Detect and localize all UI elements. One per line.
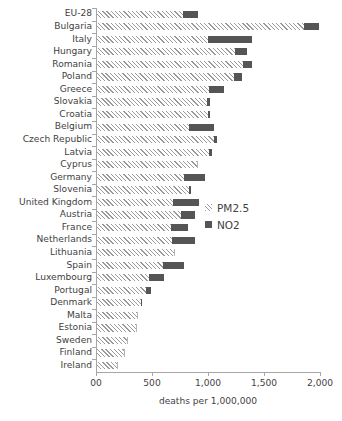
bar-segment-pm25: [96, 11, 184, 18]
category-label: Greece: [0, 85, 92, 94]
bar-segment-pm25: [96, 312, 138, 319]
category-label: Cyprus: [0, 160, 92, 169]
bar-row: [96, 46, 320, 59]
bar-segment-no2: [209, 86, 224, 93]
bar-segment-pm25: [96, 349, 125, 356]
bar-row: [96, 246, 320, 259]
bar-segment-pm25: [96, 186, 190, 193]
bar-segment-pm25: [96, 86, 210, 93]
y-axis-tick: [92, 334, 96, 335]
bar-segment-no2: [181, 211, 194, 218]
bar-row: [96, 347, 320, 360]
category-label: Slovenia: [0, 185, 92, 194]
y-axis-tick: [92, 246, 96, 247]
bar-segment-pm25: [96, 161, 198, 168]
bar-row: [96, 171, 320, 184]
bar-segment-pm25: [96, 73, 235, 80]
bar-segment-pm25: [96, 237, 173, 244]
bar-segment-no2: [207, 98, 210, 105]
y-axis-tick: [92, 33, 96, 34]
category-axis-labels: EU-28BulgariaItalyHungaryRomaniaPolandGr…: [0, 8, 92, 372]
category-label: Estonia: [0, 323, 92, 332]
y-axis-tick: [92, 134, 96, 135]
category-label: Romania: [0, 60, 92, 69]
bar-segment-no2: [172, 237, 194, 244]
y-axis-tick: [92, 359, 96, 360]
bar-segment-no2: [141, 299, 142, 306]
bar-segment-pm25: [96, 287, 147, 294]
bar-segment-pm25: [96, 36, 209, 43]
bar-segment-no2: [208, 36, 252, 43]
y-axis-tick: [92, 209, 96, 210]
category-label: Netherlands: [0, 235, 92, 244]
category-label: Sweden: [0, 336, 92, 345]
x-axis-tick: [264, 372, 265, 376]
category-label: Lithuania: [0, 248, 92, 257]
bar-row: [96, 134, 320, 147]
bar-row: [96, 96, 320, 109]
y-axis-tick: [92, 309, 96, 310]
category-label: Italy: [0, 35, 92, 44]
category-label: France: [0, 223, 92, 232]
bar-row: [96, 334, 320, 347]
y-axis-tick: [92, 83, 96, 84]
bar-segment-pm25: [96, 136, 215, 143]
bar-row: [96, 108, 320, 121]
plot-area: [96, 8, 320, 372]
y-axis-tick: [92, 71, 96, 72]
bar-segment-no2: [208, 111, 210, 118]
bar-row: [96, 184, 320, 197]
bar-row: [96, 322, 320, 335]
bar-row: [96, 259, 320, 272]
category-label: Czech Republic: [0, 135, 92, 144]
category-label: Austria: [0, 210, 92, 219]
category-label: United Kingdom: [0, 198, 92, 207]
bar-row: [96, 83, 320, 96]
x-axis-tick: [96, 372, 97, 376]
category-label: Slovakia: [0, 97, 92, 106]
bar-segment-pm25: [96, 149, 210, 156]
x-axis-tick-label: 500: [127, 378, 177, 388]
y-axis-tick: [92, 46, 96, 47]
category-label: Denmark: [0, 298, 92, 307]
bar-segment-pm25: [96, 211, 182, 218]
legend-label-pm25: PM2.5: [217, 200, 249, 216]
bar-segment-no2: [171, 224, 188, 231]
y-axis-tick: [92, 284, 96, 285]
y-axis-tick: [92, 171, 96, 172]
bar-row: [96, 234, 320, 247]
category-label: Ireland: [0, 361, 92, 370]
bar-segment-no2: [173, 199, 199, 206]
bar-row: [96, 58, 320, 71]
bar-row: [96, 359, 320, 372]
bar-segment-no2: [243, 61, 252, 68]
bar-segment-no2: [183, 11, 198, 18]
y-axis-line: [96, 8, 97, 372]
bar-segment-no2: [184, 174, 204, 181]
bar-segment-no2: [189, 186, 191, 193]
y-axis-tick: [92, 234, 96, 235]
solid-swatch-icon: [205, 221, 212, 228]
y-axis-tick: [92, 322, 96, 323]
x-axis-tick-label: 2,000: [295, 378, 342, 388]
y-axis-tick: [92, 96, 96, 97]
y-axis-tick: [92, 121, 96, 122]
bar-segment-pm25: [96, 362, 118, 369]
category-label: Spain: [0, 261, 92, 270]
category-label: Finland: [0, 348, 92, 357]
bar-segment-pm25: [96, 174, 185, 181]
bar-segment-pm25: [96, 124, 190, 131]
x-axis-tick-label: 1,000: [183, 378, 233, 388]
category-label: Germany: [0, 173, 92, 182]
category-label: Luxembourg: [0, 273, 92, 282]
bar-segment-pm25: [96, 23, 305, 30]
bar-row: [96, 272, 320, 285]
bar-row: [96, 33, 320, 46]
bar-segment-pm25: [96, 337, 128, 344]
x-axis-tick: [208, 372, 209, 376]
category-label: Portugal: [0, 286, 92, 295]
x-axis-tick-label: 1,500: [239, 378, 289, 388]
bar-segment-no2: [235, 48, 247, 55]
bar-row: [96, 159, 320, 172]
bar-segment-no2: [163, 262, 184, 269]
